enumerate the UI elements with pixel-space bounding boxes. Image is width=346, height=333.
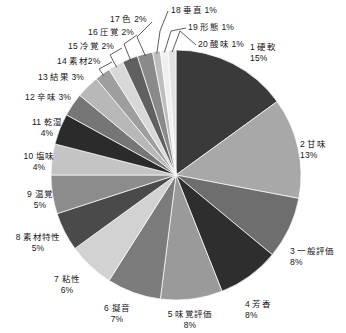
pie-label-11: 11 乾湿 4% bbox=[18, 117, 76, 138]
pie-chart: 1 硬軟 15% 2 甘味 13% 3 一般評価 8% 4 芳香 8% 5 味覚… bbox=[0, 0, 346, 333]
pie-label-1-name: 1 硬軟 bbox=[250, 42, 276, 53]
pie-label-4-name: 4 芳香 bbox=[245, 299, 271, 310]
pie-label-3-percent: 8% bbox=[290, 257, 334, 268]
pie-label-6-name: 6 擬音 bbox=[86, 303, 148, 314]
pie-label-17-name: 17 色 2% bbox=[110, 14, 147, 24]
pie-label-13-name: 13 結果 3% bbox=[38, 72, 84, 82]
leader-line-19 bbox=[164, 28, 186, 53]
pie-label-9-name: 9 温覚 bbox=[12, 189, 68, 200]
pie-label-11-percent: 4% bbox=[18, 128, 76, 139]
pie-label-5: 5 味覚評価 8% bbox=[152, 309, 228, 330]
pie-label-5-percent: 8% bbox=[152, 320, 228, 331]
pie-label-1: 1 硬軟 15% bbox=[250, 42, 276, 63]
pie-label-19-name: 19 形態 1% bbox=[188, 22, 234, 32]
leader-line-17 bbox=[137, 22, 152, 56]
pie-label-10: 10 塩味 4% bbox=[8, 151, 70, 172]
pie-label-12-name: 12 辛味 3% bbox=[25, 92, 71, 102]
pie-label-2-name: 2 甘味 bbox=[300, 139, 326, 150]
pie-label-16-name: 16 圧覚 2% bbox=[88, 27, 134, 37]
pie-label-2: 2 甘味 13% bbox=[300, 139, 326, 160]
pie-label-14-name: 14 素材2% bbox=[57, 56, 101, 66]
pie-label-3-name: 3 一般評価 bbox=[290, 246, 334, 257]
pie-label-11-name: 11 乾湿 bbox=[18, 117, 76, 128]
pie-label-17: 17 色 2% bbox=[110, 14, 147, 25]
pie-label-7-percent: 6% bbox=[36, 285, 98, 296]
pie-label-6-percent: 7% bbox=[86, 314, 148, 325]
pie-label-13: 13 結果 3% bbox=[38, 72, 84, 83]
pie-label-12: 12 辛味 3% bbox=[25, 92, 71, 103]
pie-label-15: 15 冷覚 2% bbox=[68, 41, 114, 52]
pie-label-16: 16 圧覚 2% bbox=[88, 27, 134, 38]
pie-label-14: 14 素材2% bbox=[57, 56, 101, 67]
pie-label-1-percent: 15% bbox=[250, 53, 276, 64]
pie-label-4: 4 芳香 8% bbox=[245, 299, 271, 320]
pie-label-7: 7 粘性 6% bbox=[36, 274, 98, 295]
pie-label-9: 9 温覚 5% bbox=[12, 189, 68, 210]
pie-label-10-percent: 4% bbox=[8, 162, 70, 173]
pie-label-19: 19 形態 1% bbox=[188, 22, 234, 33]
pie-label-20: 20 酸味 1% bbox=[198, 39, 244, 50]
pie-label-8-percent: 5% bbox=[2, 243, 74, 254]
pie-label-15-name: 15 冷覚 2% bbox=[68, 41, 114, 51]
pie-label-8-name: 8 素材特性 bbox=[2, 232, 74, 243]
pie-label-20-name: 20 酸味 1% bbox=[198, 39, 244, 49]
leader-line-20 bbox=[172, 31, 196, 52]
pie-label-8: 8 素材特性 5% bbox=[2, 232, 74, 253]
pie-label-4-percent: 8% bbox=[245, 310, 271, 321]
pie-label-7-name: 7 粘性 bbox=[36, 274, 98, 285]
pie-label-5-name: 5 味覚評価 bbox=[152, 309, 228, 320]
pie-label-18-name: 18 垂直 1% bbox=[171, 5, 217, 15]
pie-label-10-name: 10 塩味 bbox=[8, 151, 70, 162]
pie-label-18: 18 垂直 1% bbox=[171, 5, 217, 16]
pie-slice-group bbox=[51, 50, 301, 300]
pie-label-9-percent: 5% bbox=[12, 200, 68, 211]
pie-label-3: 3 一般評価 8% bbox=[290, 246, 334, 267]
pie-label-2-percent: 13% bbox=[300, 150, 326, 161]
pie-label-6: 6 擬音 7% bbox=[86, 303, 148, 324]
